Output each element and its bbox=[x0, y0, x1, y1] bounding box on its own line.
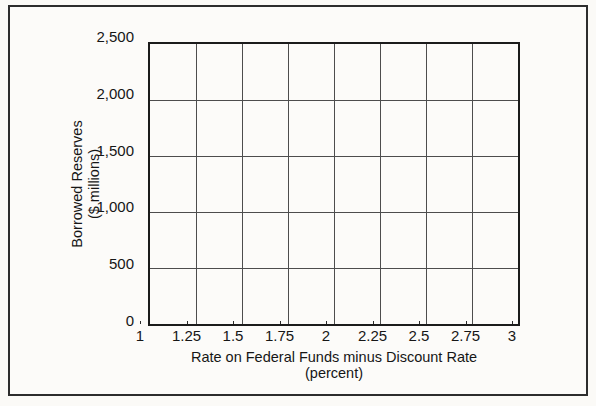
x-axis-title-line2: (percent) bbox=[134, 365, 534, 381]
x-tick-mark bbox=[280, 321, 281, 324]
x-tick-label: 1.5 bbox=[223, 327, 244, 345]
h-gridline bbox=[150, 100, 518, 101]
y-tick-label: 1,000 bbox=[64, 198, 134, 216]
y-tick-label: 2,000 bbox=[64, 85, 134, 103]
x-tick-mark bbox=[466, 321, 467, 324]
x-axis-title: Rate on Federal Funds minus Discount Rat… bbox=[134, 349, 534, 381]
x-tick-label: 1 bbox=[136, 327, 144, 345]
x-tick-mark bbox=[512, 321, 513, 324]
v-gridline bbox=[288, 44, 289, 324]
figure-border: Borrowed Reserves ($ millions) Rate on F… bbox=[8, 5, 588, 396]
x-tick-label: 2.5 bbox=[409, 327, 430, 345]
x-tick-mark bbox=[419, 321, 420, 324]
y-tick-label: 0 bbox=[64, 312, 134, 330]
v-gridline bbox=[242, 44, 243, 324]
h-gridline bbox=[150, 212, 518, 213]
x-tick-label: 2 bbox=[322, 327, 330, 345]
x-tick-mark bbox=[326, 321, 327, 324]
v-gridline bbox=[196, 44, 197, 324]
y-tick-label: 2,500 bbox=[64, 28, 134, 46]
x-tick-label: 1.25 bbox=[172, 327, 201, 345]
y-axis-title-line2: ($ millions) bbox=[86, 93, 103, 275]
x-tick-label: 3 bbox=[508, 327, 516, 345]
v-gridline bbox=[426, 44, 427, 324]
y-axis-title: Borrowed Reserves ($ millions) bbox=[69, 93, 105, 275]
plot-area bbox=[148, 42, 520, 326]
v-gridline bbox=[472, 44, 473, 324]
y-tick-label: 500 bbox=[64, 255, 134, 273]
x-tick-mark bbox=[373, 321, 374, 324]
y-axis-title-line1: Borrowed Reserves bbox=[69, 93, 86, 275]
v-gridline bbox=[334, 44, 335, 324]
x-axis-title-line1: Rate on Federal Funds minus Discount Rat… bbox=[134, 349, 534, 365]
h-gridline bbox=[150, 268, 518, 269]
x-tick-label: 2.75 bbox=[451, 327, 480, 345]
v-gridline bbox=[380, 44, 381, 324]
x-tick-mark bbox=[187, 321, 188, 324]
x-tick-label: 1.75 bbox=[265, 327, 294, 345]
x-tick-mark bbox=[140, 321, 141, 324]
x-tick-mark bbox=[233, 321, 234, 324]
chart-figure: Borrowed Reserves ($ millions) Rate on F… bbox=[0, 0, 596, 406]
h-gridline bbox=[150, 156, 518, 157]
y-tick-label: 1,500 bbox=[64, 142, 134, 160]
x-tick-label: 2.25 bbox=[358, 327, 387, 345]
